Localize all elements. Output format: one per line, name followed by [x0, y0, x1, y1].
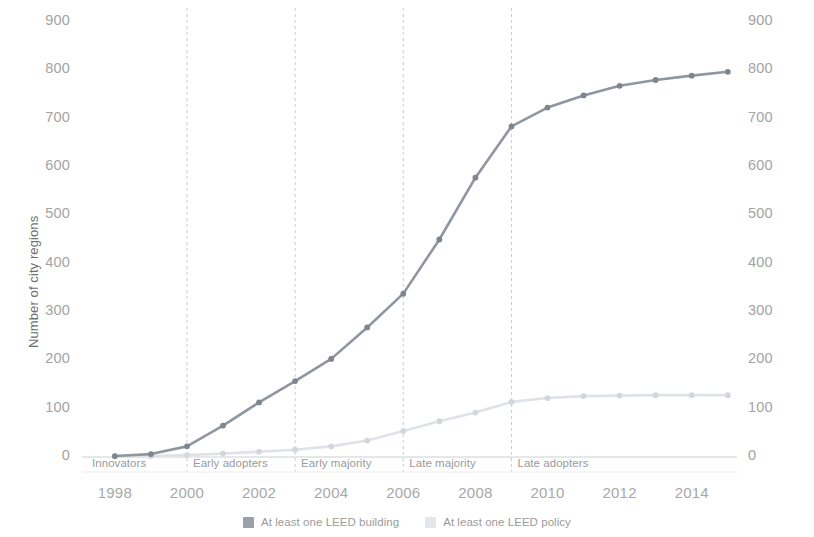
band-label-late-adopters: Late adopters: [517, 457, 588, 469]
band-label-early-majority: Early majority: [301, 457, 371, 469]
legend-swatch-icon: [425, 517, 436, 528]
legend-swatch-icon: [243, 517, 254, 528]
y-tick-left-200: 200: [30, 350, 70, 366]
y-tick-left-600: 600: [30, 157, 70, 173]
chart-legend: At least one LEED buildingAt least one L…: [0, 516, 814, 528]
x-tick-2006: 2006: [373, 484, 433, 501]
legend-item-0[interactable]: At least one LEED building: [243, 516, 399, 528]
x-tick-2008: 2008: [445, 484, 505, 501]
x-tick-2000: 2000: [157, 484, 217, 501]
y-tick-right-100: 100: [748, 399, 794, 415]
x-tick-2014: 2014: [662, 484, 722, 501]
x-tick-1998: 1998: [85, 484, 145, 501]
y-tick-right-700: 700: [748, 109, 794, 125]
x-tick-2004: 2004: [301, 484, 361, 501]
y-tick-right-200: 200: [748, 350, 794, 366]
band-label-late-majority: Late majority: [409, 457, 475, 469]
y-tick-left-700: 700: [30, 109, 70, 125]
x-tick-2002: 2002: [229, 484, 289, 501]
legend-label: At least one LEED policy: [443, 516, 571, 528]
y-tick-right-400: 400: [748, 254, 794, 270]
y-tick-right-300: 300: [748, 302, 794, 318]
legend-label: At least one LEED building: [261, 516, 399, 528]
x-tick-2012: 2012: [590, 484, 650, 501]
y-tick-left-0: 0: [30, 447, 70, 463]
y-tick-left-800: 800: [30, 60, 70, 76]
y-tick-right-800: 800: [748, 60, 794, 76]
chart-figure: Number of city regions 01002003004005006…: [0, 0, 814, 537]
y-tick-right-900: 900: [748, 12, 794, 28]
y-tick-right-600: 600: [748, 157, 794, 173]
band-label-early-adopters: Early adopters: [193, 457, 268, 469]
x-tick-2010: 2010: [518, 484, 578, 501]
y-tick-left-900: 900: [30, 12, 70, 28]
legend-item-1[interactable]: At least one LEED policy: [425, 516, 571, 528]
y-tick-left-100: 100: [30, 399, 70, 415]
y-tick-right-0: 0: [748, 447, 794, 463]
y-tick-left-300: 300: [30, 302, 70, 318]
y-tick-right-500: 500: [748, 205, 794, 221]
band-label-innovators: Innovators: [92, 457, 146, 469]
y-tick-left-500: 500: [30, 205, 70, 221]
y-tick-left-400: 400: [30, 254, 70, 270]
